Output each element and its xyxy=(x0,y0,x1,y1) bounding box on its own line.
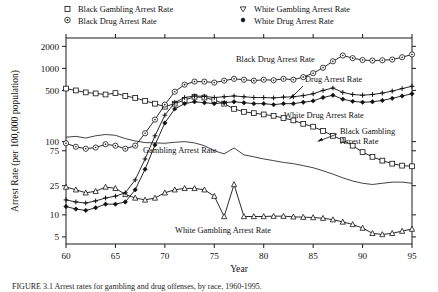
data-point-marker xyxy=(153,133,158,138)
marker-inner-dot xyxy=(293,79,295,81)
data-point-marker xyxy=(153,101,158,106)
marker-inner-dot xyxy=(243,79,245,81)
legend-label: Black Gambling Arrest Rate xyxy=(78,5,173,14)
marker-inner-dot xyxy=(401,56,403,58)
data-point-marker xyxy=(281,101,285,105)
data-point-marker xyxy=(74,207,78,211)
legend-label: White Gambling Arrest Rate xyxy=(254,5,350,14)
marker-inner-dot xyxy=(253,80,255,82)
data-point-marker xyxy=(370,231,375,236)
figure-caption: FIGURE 3.1 Arrest rates for gambling and… xyxy=(12,282,262,291)
legend-item-black-gambling: Black Gambling Arrest Rate xyxy=(65,5,173,14)
legend-label: White Drug Arrest Rate xyxy=(254,17,334,26)
open-circle-dot-icon xyxy=(67,19,69,21)
marker-inner-dot xyxy=(105,143,107,145)
marker-inner-dot xyxy=(213,82,215,84)
data-point-marker xyxy=(400,163,405,168)
data-point-marker xyxy=(311,99,315,103)
data-point-marker xyxy=(63,184,68,189)
marker-inner-dot xyxy=(144,132,146,134)
data-point-marker xyxy=(103,196,108,201)
marker-inner-dot xyxy=(184,84,186,86)
y-tick-label: 500 xyxy=(45,86,59,96)
data-point-marker xyxy=(143,98,148,103)
data-point-marker xyxy=(192,100,196,104)
data-point-marker xyxy=(390,161,395,166)
x-tick-label: 95 xyxy=(407,251,417,261)
marker-inner-dot xyxy=(382,59,384,61)
marker-inner-dot xyxy=(65,142,67,144)
data-point-marker xyxy=(410,92,414,96)
data-point-marker xyxy=(202,101,206,105)
data-point-marker xyxy=(380,98,384,102)
data-point-marker xyxy=(242,109,247,114)
marker-inner-dot xyxy=(352,57,354,59)
y-tick-label: 2000 xyxy=(41,42,60,52)
data-point-marker xyxy=(370,154,375,159)
chart-legend: Black Gambling Arrest Rate Black Drug Ar… xyxy=(65,5,351,26)
data-point-marker xyxy=(390,89,395,94)
data-point-marker xyxy=(360,100,364,104)
data-point-marker xyxy=(222,214,227,219)
figure-container: Black Gambling Arrest Rate Black Drug Ar… xyxy=(0,0,438,292)
data-point-marker xyxy=(380,158,385,163)
marker-inner-dot xyxy=(164,104,166,106)
data-point-marker xyxy=(231,182,236,187)
marker-inner-dot xyxy=(302,76,304,78)
data-point-marker xyxy=(113,91,118,96)
marker-inner-dot xyxy=(223,80,225,82)
data-point-marker xyxy=(350,99,354,103)
x-tick-label: 70 xyxy=(160,251,170,261)
marker-inner-dot xyxy=(233,78,235,80)
data-point-marker xyxy=(262,101,266,105)
data-point-marker xyxy=(252,101,256,105)
y-tick-label: 25 xyxy=(50,181,60,191)
data-point-marker xyxy=(271,102,275,106)
data-point-marker xyxy=(301,93,306,98)
marker-inner-dot xyxy=(362,59,364,61)
data-point-marker xyxy=(340,90,345,95)
annotation-drug: Drug Arrest Rate xyxy=(305,75,362,84)
data-point-marker xyxy=(222,94,227,99)
data-point-marker xyxy=(83,201,88,206)
marker-inner-dot xyxy=(95,147,97,149)
data-point-marker xyxy=(380,91,385,96)
data-point-marker xyxy=(84,208,88,212)
data-point-marker xyxy=(291,101,295,105)
arrest-rate-line-chart: Black Gambling Arrest Rate Black Drug Ar… xyxy=(0,0,438,292)
data-point-marker xyxy=(73,88,78,93)
data-point-marker xyxy=(64,204,68,208)
data-point-marker xyxy=(232,106,237,111)
marker-inner-dot xyxy=(332,60,334,62)
data-point-marker xyxy=(242,94,247,99)
data-point-marker xyxy=(232,94,237,99)
data-point-marker xyxy=(311,91,316,96)
y-tick-label: 75 xyxy=(50,146,60,156)
data-point-marker xyxy=(321,95,325,99)
data-point-marker xyxy=(152,195,157,200)
marker-inner-dot xyxy=(85,148,87,150)
data-point-marker xyxy=(64,198,69,203)
y-tick-label: 10 xyxy=(50,210,60,220)
marker-inner-dot xyxy=(372,60,374,62)
open-square-icon xyxy=(65,7,70,12)
marker-inner-dot xyxy=(115,145,117,147)
data-point-marker xyxy=(212,193,217,198)
data-point-marker xyxy=(113,202,117,206)
data-point-marker xyxy=(370,92,375,97)
x-tick-label: 85 xyxy=(309,251,319,261)
y-tick-label: 100 xyxy=(45,137,59,147)
annotation-white-drug: White Drug Arrest Rate xyxy=(284,111,364,120)
open-triangle-icon xyxy=(240,7,246,12)
data-point-marker xyxy=(400,94,404,98)
data-point-marker xyxy=(301,100,305,104)
data-point-marker xyxy=(331,86,336,91)
data-point-marker xyxy=(123,94,128,99)
marker-inner-dot xyxy=(273,79,275,81)
x-tick-label: 60 xyxy=(61,251,71,261)
marker-inner-dot xyxy=(263,79,265,81)
data-point-marker xyxy=(261,112,266,117)
legend-label: Black Drug Arrest Rate xyxy=(78,17,157,26)
data-point-marker xyxy=(370,100,374,104)
data-point-marker xyxy=(232,100,236,104)
